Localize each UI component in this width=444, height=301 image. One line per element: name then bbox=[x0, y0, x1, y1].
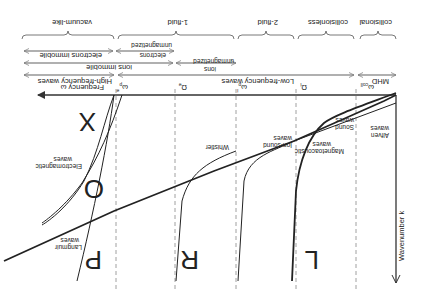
brace-1fluid bbox=[118, 31, 234, 39]
marker-Omega-i: Ωi bbox=[300, 82, 307, 92]
brace-2fluid bbox=[238, 31, 294, 39]
electrons-unmag-label: unmagnetized bbox=[131, 41, 172, 49]
ions-unmag-label: unmagnetized bbox=[193, 57, 234, 65]
ion-sound-label: Ion-sound bbox=[263, 142, 292, 149]
brace-collisional bbox=[360, 31, 396, 39]
langmuir-label: Langmuir bbox=[54, 243, 82, 251]
branch-R: R bbox=[180, 245, 199, 275]
ion-sound-label-2: waves bbox=[273, 135, 293, 142]
electrons-immobile-label: electrons immobile bbox=[39, 51, 102, 60]
wavenumber-label: Wavenumber k bbox=[397, 211, 406, 261]
sound-label: Sound bbox=[335, 124, 354, 131]
branch-X: X bbox=[79, 107, 96, 137]
brace-collisionless bbox=[298, 31, 354, 39]
regime-vacuum-like: vacuum-like bbox=[52, 18, 92, 27]
omega-pe-sup: e bbox=[116, 88, 119, 94]
omega-coll-sub: coll bbox=[361, 82, 369, 88]
omega-pe-sub: p bbox=[119, 82, 122, 88]
alfven-label: Alfven bbox=[371, 132, 389, 139]
whistler-label: Whistler bbox=[205, 144, 229, 151]
magnetoacoustic-label-2: waves bbox=[312, 141, 332, 148]
dispersion-diagram: Wavenumber k Frequency ω ωcoll Ωi ωpi Ωe… bbox=[0, 0, 444, 301]
regime-collisionless: collisionless bbox=[308, 18, 348, 27]
regime-collisional: collisional bbox=[359, 18, 392, 27]
sound-label-2: waves bbox=[335, 117, 355, 124]
high-freq-label: High-frequency waves bbox=[38, 77, 112, 86]
brace-vacuum-like bbox=[22, 31, 114, 39]
langmuir-label-2: waves bbox=[60, 237, 80, 244]
omega-pi-sup: i bbox=[237, 88, 238, 94]
branch-O: O bbox=[84, 174, 104, 204]
alfven-label-2: waves bbox=[370, 125, 390, 132]
regime-1fluid: 1-fluid bbox=[168, 18, 188, 27]
magnetoacoustic-label: Magnetoacoustic bbox=[294, 147, 344, 155]
branch-letters: L R P O X bbox=[79, 107, 319, 275]
marker-omega-pe: ωpe bbox=[116, 82, 128, 94]
regime-2fluid: 2-fluid bbox=[258, 18, 278, 27]
marker-Omega-e: Ωe bbox=[178, 82, 187, 92]
ions-label: ions bbox=[203, 66, 216, 73]
electromagnetic-label: Electromagnetic bbox=[35, 162, 82, 170]
branch-L: L bbox=[305, 245, 319, 275]
frequency-boundaries bbox=[116, 89, 356, 289]
figure-stage: Wavenumber k Frequency ω ωcoll Ωi ωpi Ωe… bbox=[0, 0, 444, 301]
low-freq-label: Low-frequency waves bbox=[221, 77, 294, 86]
mhd-label: MHD bbox=[371, 77, 389, 86]
regime-braces: collisional collisionless 2-fluid 1-flui… bbox=[22, 18, 396, 39]
electromagnetic-label-2: waves bbox=[53, 156, 73, 163]
ions-immobile-label: ions immobile bbox=[86, 63, 132, 72]
branch-P: P bbox=[85, 245, 102, 275]
electrons-label: electrons bbox=[139, 52, 166, 59]
Omega-e-sub: e bbox=[178, 82, 181, 88]
Omega-i-sub: i bbox=[300, 82, 301, 88]
regime-rows: MHD Low-frequency waves High-frequency w… bbox=[24, 41, 396, 86]
